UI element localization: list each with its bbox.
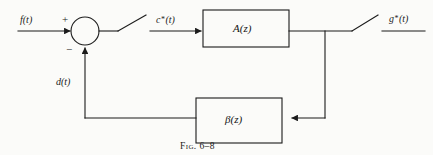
input-sampler-contact[interactable]: [118, 15, 146, 31]
figure-container: f(t) + − c*(t) A(z) g*(t) d(t) β(z) Fig.…: [0, 0, 433, 155]
input-signal-label: f(t): [20, 15, 32, 25]
figure-caption: Fig. 6–8: [180, 141, 215, 151]
summing-junction-plus-sign: +: [62, 14, 68, 25]
summing-junction-minus-sign: −: [66, 44, 72, 55]
output-label-arg: (t): [399, 13, 408, 24]
output-sampler-contact[interactable]: [352, 15, 378, 31]
forward-block-label: A(z): [233, 23, 251, 34]
output-signal-label: g*(t): [389, 14, 408, 24]
feedback-signal-label: d(t): [56, 77, 70, 87]
sampled-error-label: c*(t): [156, 15, 175, 25]
summing-junction-circle: [71, 17, 99, 45]
sampled-error-label-arg: (t): [165, 14, 174, 25]
feedback-block-label: β(z): [225, 114, 242, 125]
